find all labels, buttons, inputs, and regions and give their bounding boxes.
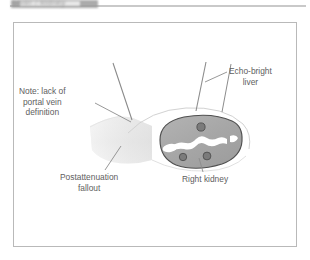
note-line-2: portal vein	[19, 97, 66, 108]
note-line-3: definition	[19, 107, 66, 118]
ultrasound-illustration	[0, 0, 310, 260]
note-line-1: Note: lack of	[19, 86, 66, 97]
beam-line-left	[113, 63, 132, 120]
beam-line-right	[196, 62, 206, 111]
label-postattenuation-fallout: Postattenuation fallout	[60, 172, 118, 193]
right-kidney-text: Right kidney	[182, 174, 228, 185]
label-echo-bright-liver: Echo-bright liver	[229, 66, 272, 87]
label-right-kidney: Right kidney	[182, 174, 228, 185]
leader-echo-bright	[205, 72, 227, 82]
fallout-line-1: Postattenuation	[60, 172, 118, 183]
kidney-shape	[160, 115, 242, 168]
attenuation-wedge	[90, 116, 152, 164]
fallout-line-2: fallout	[60, 183, 118, 194]
echo-bright-line-1: Echo-bright	[229, 66, 272, 77]
echo-bright-line-2: liver	[229, 77, 272, 88]
label-portal-vein-note: Note: lack of portal vein definition	[19, 86, 66, 118]
